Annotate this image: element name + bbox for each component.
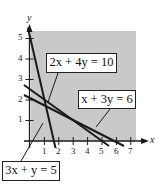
x-tick-7: 7 bbox=[128, 146, 133, 156]
x-tick-5: 5 bbox=[99, 146, 104, 156]
y-tick-3: 3 bbox=[18, 73, 23, 83]
x-tick-2: 2 bbox=[56, 146, 61, 156]
x-tick-6: 6 bbox=[114, 146, 119, 156]
label-eq2: x + 3y = 6 bbox=[78, 90, 136, 109]
y-tick-4: 4 bbox=[18, 53, 23, 63]
y-axis-label: y bbox=[27, 12, 31, 23]
label-eq1: 2x + 4y = 10 bbox=[46, 53, 117, 73]
x-tick-4: 4 bbox=[85, 146, 90, 156]
y-tick-1: 1 bbox=[18, 114, 23, 124]
x-tick-3: 3 bbox=[71, 146, 76, 156]
x-axis-arrow-icon bbox=[141, 138, 149, 144]
label-eq3: 3x + y = 5 bbox=[2, 161, 60, 181]
y-tick-2: 2 bbox=[18, 94, 23, 104]
x-tick-1: 1 bbox=[42, 146, 47, 156]
x-axis-label: x bbox=[150, 134, 154, 145]
y-tick-5: 5 bbox=[18, 32, 23, 42]
